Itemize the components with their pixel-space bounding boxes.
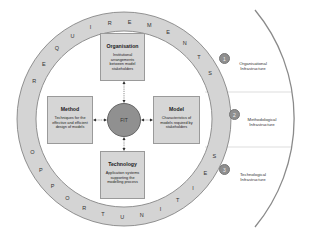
technology-box: Technology Application systems supportin…: [100, 151, 145, 199]
requirements-letter: E: [166, 29, 170, 35]
infra-number-1: 1: [219, 53, 230, 64]
opportunities-letter: R: [82, 205, 86, 211]
requirements-letter: Q: [55, 45, 60, 51]
organisation-box: Organisation Institutional arrangements …: [100, 33, 145, 81]
opportunities-letter: P: [39, 167, 43, 173]
opportunities-letter: E: [203, 170, 207, 176]
infra-label-3: Technological Infrastructure: [230, 172, 276, 182]
requirements-letter: E: [42, 61, 46, 67]
fit-circle: FIT: [107, 103, 141, 137]
opportunities-letter: O: [30, 149, 35, 155]
requirements-letter: R: [32, 78, 36, 84]
opportunities-letter: U: [120, 214, 124, 220]
requirements-letter: R: [108, 20, 112, 26]
method-description: Techniques for the effective and efficie…: [51, 116, 89, 130]
requirements-letter: U: [71, 33, 75, 39]
model-box: Model Characteristics of models required…: [153, 96, 200, 144]
technology-description: Application systems supporting the model…: [104, 171, 141, 185]
opportunities-letter: P: [51, 183, 55, 189]
requirements-letter: S: [208, 70, 212, 76]
opportunities-letter: S: [213, 153, 217, 159]
technology-title: Technology: [101, 161, 144, 167]
model-title: Model: [154, 106, 199, 112]
opportunities-letter: O: [65, 195, 70, 201]
organisation-description: Institutional arrangements between model…: [104, 53, 141, 71]
requirements-letter: M: [147, 22, 152, 28]
method-box: Method Techniques for the effective and …: [47, 96, 93, 144]
method-title: Method: [48, 106, 92, 112]
model-description: Characteristics of models required by st…: [157, 116, 196, 130]
requirements-letter: N: [183, 40, 187, 46]
opportunities-letter: N: [140, 212, 144, 218]
requirements-letter: E: [128, 19, 132, 25]
infra-number-3: 3: [219, 164, 230, 175]
infra-label-2: Methodological Infrastructure: [238, 117, 286, 127]
organisation-title: Organisation: [101, 43, 144, 49]
infra-label-1: Organisational Infrastructure: [230, 61, 276, 71]
